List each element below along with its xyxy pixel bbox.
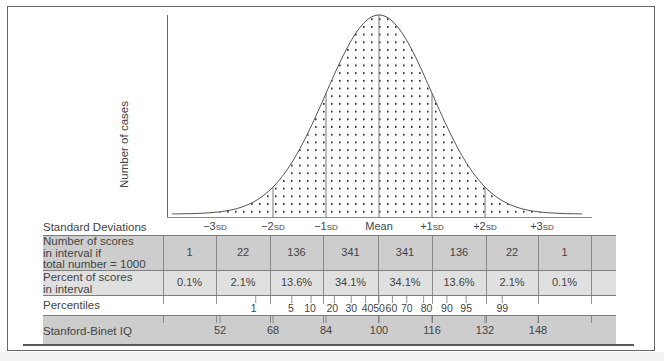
iq-value: 68: [267, 324, 279, 336]
percent-cell: 2.1%: [216, 276, 270, 288]
y-axis-label: Number of cases: [118, 101, 130, 188]
sd-tick-label: −3SD: [203, 220, 227, 232]
count-label-line: Number of scores: [43, 236, 146, 248]
iq-value: 148: [529, 324, 547, 336]
dotted-area: [172, 15, 583, 216]
percentile-value: 95: [460, 302, 472, 314]
percentile-value: 80: [421, 302, 433, 314]
iq-value: 52: [214, 324, 226, 336]
percentile-value: 1: [251, 302, 257, 314]
percentile-value: 50: [373, 302, 385, 314]
sd-tick-label: +1SD: [420, 220, 444, 232]
percent-label-line: in interval: [43, 284, 132, 296]
iq-value: 132: [476, 324, 494, 336]
percentile-value: 60: [386, 302, 398, 314]
percentile-value: 30: [345, 302, 357, 314]
percentile-value: 5: [288, 302, 294, 314]
percentile-value: 70: [401, 302, 413, 314]
percentile-value: 10: [304, 302, 316, 314]
count-cell: 136: [270, 246, 323, 258]
percent-cell: 13.6%: [270, 276, 323, 288]
percent-cell: 34.1%: [378, 276, 432, 288]
percent-cell: 2.1%: [486, 276, 538, 288]
sd-tick-label: −1SD: [314, 220, 338, 232]
percentile-value: 99: [496, 302, 508, 314]
iq-row-label: Stanford-Binet IQ: [43, 325, 132, 337]
count-cell: 136: [432, 246, 486, 258]
sd-row-label: Standard Deviations: [43, 221, 147, 233]
count-row-label: Number of scores in interval if total nu…: [43, 236, 146, 271]
sd-tick-label: −2SD: [261, 220, 285, 232]
percentile-row-label: Percentiles: [43, 299, 100, 311]
percent-cell: 0.1%: [538, 276, 591, 288]
sd-tick-label: +2SD: [473, 220, 497, 232]
percentile-value: 20: [327, 302, 339, 314]
percent-cell: 13.6%: [432, 276, 486, 288]
percent-label-line: Percent of scores: [43, 272, 132, 284]
count-cell: 22: [216, 246, 270, 258]
count-label-line: total number = 1000: [43, 259, 146, 271]
count-cell: 1: [538, 246, 591, 258]
iq-value: 116: [423, 324, 441, 336]
percentile-value: 40: [362, 302, 374, 314]
percent-cell: 34.1%: [323, 276, 378, 288]
percent-cell: 0.1%: [163, 276, 216, 288]
count-cell: 341: [378, 246, 432, 258]
sd-tick-label: +3SD: [530, 220, 554, 232]
percentile-value: 90: [441, 302, 453, 314]
count-cell: 341: [323, 246, 378, 258]
count-cell: 1: [163, 246, 216, 258]
iq-value: 84: [320, 324, 332, 336]
percent-row-label: Percent of scores in interval: [43, 272, 132, 295]
count-cell: 22: [486, 246, 538, 258]
sd-tick-label: Mean: [365, 220, 393, 232]
iq-value: 100: [370, 324, 388, 336]
